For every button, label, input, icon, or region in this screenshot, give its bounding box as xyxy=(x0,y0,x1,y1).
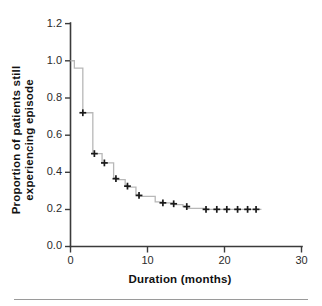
y-tick-label: 1.0 xyxy=(47,54,62,66)
y-tick-label: 0.8 xyxy=(47,91,62,103)
x-tick-label: 30 xyxy=(295,254,307,266)
survival-curve-chart: Proportion of patients still experiencin… xyxy=(0,0,322,306)
y-axis-title: Proportion of patients still experiencin… xyxy=(10,66,35,215)
x-tick-label: 0 xyxy=(67,254,73,266)
y-tick-label: 0.4 xyxy=(47,165,62,177)
y-tick-label: 0.0 xyxy=(47,239,62,251)
x-tick-label: 10 xyxy=(141,254,153,266)
x-axis-title: Duration (months) xyxy=(128,273,231,285)
x-tick-label: 20 xyxy=(218,254,230,266)
y-axis-title-line2: experiencing episode xyxy=(23,79,35,201)
figure-panel: Proportion of patients still experiencin… xyxy=(0,0,322,306)
survival-step-line xyxy=(71,61,262,210)
y-tick-label: 0.2 xyxy=(47,202,62,214)
y-tick-label: 1.2 xyxy=(47,17,62,29)
x-axis-ticks: 0 10 20 30 xyxy=(67,247,307,267)
censor-marks-group xyxy=(79,109,259,212)
y-tick-label: 0.6 xyxy=(47,128,62,140)
y-axis-title-line1: Proportion of patients still xyxy=(10,66,22,215)
y-axis-ticks: 0.0 0.2 0.4 0.6 0.8 1.0 1.2 xyxy=(47,17,71,252)
